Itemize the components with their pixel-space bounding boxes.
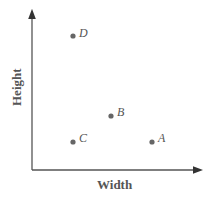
point-b (108, 113, 113, 118)
point-b-label: B (117, 105, 125, 119)
scatter-chart: D B C A Width Height (0, 0, 213, 202)
y-axis-label: Height (9, 68, 24, 106)
point-c (70, 139, 75, 144)
point-d-label: D (78, 26, 88, 40)
point-d (70, 33, 75, 38)
point-c-label: C (79, 131, 88, 145)
point-a-label: A (157, 131, 166, 145)
x-axis-label: Width (97, 177, 133, 192)
point-a (149, 139, 154, 144)
